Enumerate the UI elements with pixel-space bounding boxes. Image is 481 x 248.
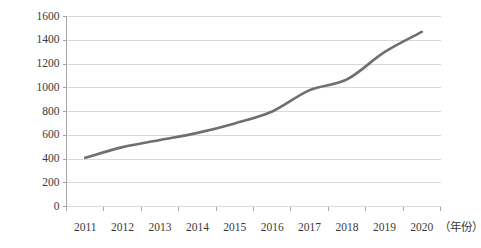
y-axis-tick-label: 1400 <box>37 34 60 46</box>
y-axis-tick-label: 1200 <box>37 58 60 70</box>
y-axis-tick-label: 1600 <box>37 11 60 23</box>
y-axis-tick-label: 200 <box>42 177 59 189</box>
y-axis-tick-label: 1000 <box>37 82 60 94</box>
x-axis-caption: （年份） <box>439 222 481 234</box>
gridlines <box>67 17 441 207</box>
y-axis-tick-label: 600 <box>42 129 59 141</box>
y-axis-tick-label: 0 <box>54 201 60 213</box>
y-axis-tick-label: 800 <box>42 106 59 118</box>
y-axis-ticks <box>63 17 67 207</box>
data-series-line <box>85 32 422 158</box>
y-axis-tick-label: 400 <box>42 153 59 165</box>
x-axis-ticks <box>67 207 441 211</box>
